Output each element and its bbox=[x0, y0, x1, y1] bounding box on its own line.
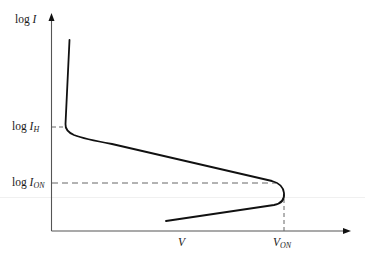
on-current-subscript: ON bbox=[33, 181, 44, 190]
on-current-label: log ION bbox=[12, 177, 45, 189]
x-axis-label-var: V bbox=[178, 236, 185, 248]
x-axis-label: V bbox=[178, 237, 185, 249]
holding-current-label: log IH bbox=[12, 121, 39, 133]
on-current-prefix: log bbox=[12, 176, 30, 188]
holding-current-subscript: H bbox=[33, 125, 39, 134]
on-voltage-subscript: ON bbox=[280, 241, 291, 250]
iv-curve bbox=[65, 40, 284, 221]
iv-diagram: log I log IH log ION V VON bbox=[0, 0, 365, 258]
y-axis-arrow-icon bbox=[49, 13, 55, 21]
y-axis-label: log I bbox=[15, 14, 36, 26]
y-axis-label-var: I bbox=[33, 13, 37, 25]
diagram-canvas bbox=[0, 0, 365, 258]
on-voltage-label: VON bbox=[273, 237, 291, 249]
x-axis-arrow-icon bbox=[343, 228, 351, 234]
holding-current-prefix: log bbox=[12, 120, 30, 132]
y-axis-label-prefix: log bbox=[15, 13, 33, 25]
on-voltage-var: V bbox=[273, 236, 280, 248]
